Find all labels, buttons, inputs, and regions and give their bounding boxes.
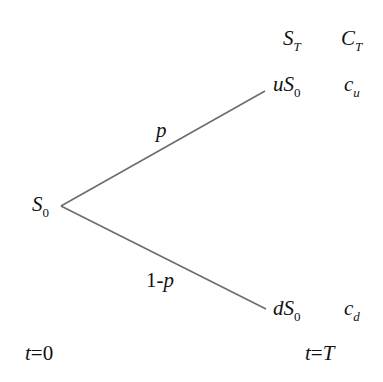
tree-edges <box>0 0 383 382</box>
time-end-label: t=T <box>305 343 334 364</box>
up-payoff-label: cu <box>344 74 360 95</box>
up-branch-line <box>61 91 265 206</box>
down-node-label: dS0 <box>273 298 301 319</box>
option-price-header: CT <box>341 28 362 49</box>
down-probability-label: 1-p <box>146 270 174 291</box>
up-node-label: uS0 <box>273 74 301 95</box>
stock-price-header: ST <box>283 28 301 49</box>
down-payoff-label: cd <box>344 298 360 319</box>
up-probability-label: p <box>156 120 167 141</box>
down-branch-line <box>61 206 266 309</box>
root-node-label: S0 <box>32 194 49 215</box>
time-start-label: t=0 <box>25 343 53 364</box>
